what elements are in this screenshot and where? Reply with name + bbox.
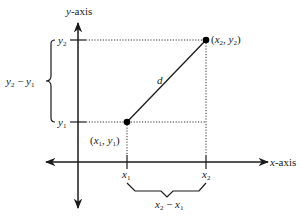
y-axis-label: y-axis xyxy=(65,5,92,17)
tick-label-y2: y2 xyxy=(57,34,67,48)
point-p1 xyxy=(124,119,131,126)
tick-label-y1: y1 xyxy=(57,116,67,130)
segment-d-label: d xyxy=(157,74,163,86)
vertical-brace xyxy=(46,40,55,122)
tick-label-x1: x1 xyxy=(121,168,131,182)
tick-label-x2: x2 xyxy=(201,168,211,182)
horizontal-diff-label: x2 − x1 xyxy=(154,198,184,212)
segment-d xyxy=(127,40,206,122)
vertical-diff-label: y2 − y1 xyxy=(5,75,35,89)
distance-diagram: y-axis x-axis y2 y1 x1 x2 (x1, y1) (x2, … xyxy=(0,0,301,220)
x-axis-label: x-axis xyxy=(269,156,296,168)
point-p1-label: (x1, y1) xyxy=(90,134,120,148)
point-p2 xyxy=(203,37,210,44)
point-p2-label: (x2, y2) xyxy=(211,33,241,47)
diagram-canvas: y-axis x-axis y2 y1 x1 x2 (x1, y1) (x2, … xyxy=(0,0,301,220)
horizontal-brace xyxy=(127,183,206,197)
